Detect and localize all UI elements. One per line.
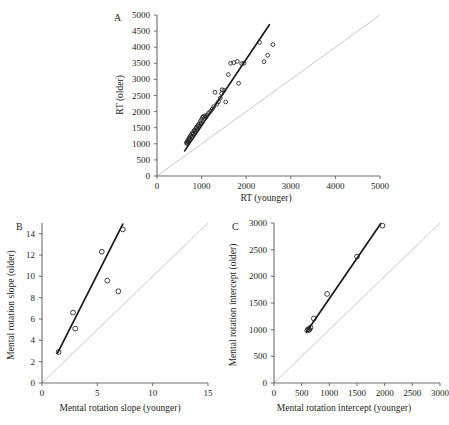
y-tick-label: 0 — [146, 171, 151, 181]
y-tick-label: 3500 — [132, 58, 151, 68]
x-tick-label: 5000 — [371, 181, 390, 191]
y-tick-label: 10 — [26, 271, 36, 281]
panel-c-letter: C — [232, 221, 239, 232]
data-point — [213, 90, 217, 94]
panel-c-plot-area: 0500100015002000250030000500100015002000… — [249, 218, 449, 398]
x-tick-label: 500 — [295, 388, 309, 398]
panel-c-svg: 0500100015002000250030000500100015002000… — [224, 205, 449, 425]
x-tick-label: 1000 — [193, 181, 212, 191]
panel-c-y-axis-title: Mental rotation intercept (older) — [228, 244, 239, 367]
data-point — [325, 292, 330, 297]
panel-b-x-axis-title: Mental rotation slope (younger) — [59, 403, 180, 414]
panel-a-identity-line — [157, 15, 380, 176]
panel-b-letter: B — [16, 221, 23, 232]
x-tick-label: 1500 — [348, 388, 367, 398]
y-tick-label: 4500 — [132, 26, 151, 36]
y-tick-label: 14 — [26, 229, 36, 239]
x-tick-label: 1000 — [320, 388, 339, 398]
y-tick-label: 500 — [137, 155, 151, 165]
data-point — [235, 59, 239, 63]
panel-b-plot-area: 05101502468101214 — [26, 223, 213, 398]
x-tick-label: 3000 — [431, 388, 449, 398]
data-point — [266, 53, 270, 57]
data-point — [120, 227, 125, 232]
panel-b-svg: 05101502468101214 B Mental rotation slop… — [0, 205, 225, 425]
panel-a-plot-area: 0100020003000400050000500100015002000250… — [132, 10, 390, 191]
data-point — [105, 278, 110, 283]
y-tick-label: 0 — [263, 378, 268, 388]
panel-a-rt-scatter: 0100020003000400050000500100015002000250… — [0, 0, 449, 205]
y-tick-label: 6 — [31, 314, 36, 324]
y-tick-label: 12 — [26, 250, 35, 260]
panel-b-y-axis-title: Mental rotation slope (older) — [6, 250, 17, 359]
x-tick-label: 10 — [148, 388, 158, 398]
y-tick-label: 2500 — [132, 91, 151, 101]
data-point — [116, 289, 121, 294]
y-tick-label: 2000 — [249, 271, 268, 281]
data-point — [226, 73, 230, 77]
y-tick-label: 3000 — [249, 218, 268, 228]
y-tick-label: 0 — [31, 378, 36, 388]
panel-a-svg: 0100020003000400050000500100015002000250… — [0, 0, 449, 205]
x-tick-label: 3000 — [282, 181, 301, 191]
data-point — [73, 326, 78, 331]
x-tick-label: 2000 — [237, 181, 256, 191]
y-tick-label: 4 — [31, 335, 36, 345]
x-tick-label: 5 — [95, 388, 100, 398]
panel-c-intercept-scatter: 0500100015002000250030000500100015002000… — [224, 205, 449, 425]
y-tick-label: 8 — [31, 293, 36, 303]
data-point — [71, 310, 76, 315]
x-tick-label: 15 — [204, 388, 214, 398]
x-tick-label: 0 — [40, 388, 45, 398]
y-tick-label: 2 — [31, 357, 36, 367]
data-point — [237, 81, 241, 85]
panel-a-x-axis-title: RT (younger) — [240, 193, 291, 204]
x-tick-label: 0 — [272, 388, 277, 398]
data-point — [380, 223, 385, 228]
x-tick-label: 0 — [155, 181, 160, 191]
y-tick-label: 2000 — [132, 107, 151, 117]
panel-b-identity-line — [42, 223, 208, 383]
data-point — [262, 60, 266, 64]
x-tick-label: 2500 — [403, 388, 422, 398]
panel-b-slope-scatter: 05101502468101214 B Mental rotation slop… — [0, 205, 225, 425]
y-tick-label: 500 — [254, 351, 268, 361]
y-tick-label: 1500 — [132, 123, 151, 133]
panel-c-x-axis-title: Mental rotation intercept (younger) — [277, 403, 411, 414]
x-tick-label: 4000 — [326, 181, 345, 191]
y-tick-label: 4000 — [132, 42, 151, 52]
y-tick-label: 3000 — [132, 74, 151, 84]
data-point — [224, 100, 228, 104]
data-point — [99, 249, 104, 254]
data-point — [271, 43, 275, 47]
y-tick-label: 2500 — [249, 245, 268, 255]
panel-b-fit-line — [57, 224, 122, 353]
panel-a-y-axis-title: RT (older) — [115, 75, 126, 115]
y-tick-label: 5000 — [132, 10, 151, 20]
panel-c-identity-line — [274, 223, 440, 383]
x-tick-label: 2000 — [376, 388, 395, 398]
panel-a-letter: A — [114, 12, 122, 23]
y-tick-label: 1500 — [249, 298, 268, 308]
y-tick-label: 1000 — [132, 139, 151, 149]
y-tick-label: 1000 — [249, 325, 268, 335]
